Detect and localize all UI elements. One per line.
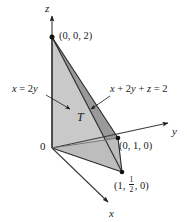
point-label-apex: (0, 0, 2)	[59, 31, 92, 42]
fraction-one-half: 12	[129, 176, 135, 193]
plane-eq-op-1: + 2	[115, 83, 131, 94]
point-label-base-corner: (1, 12, 0)	[114, 176, 149, 193]
vertex-dot-basecorner	[120, 170, 125, 175]
fraction-denominator: 2	[129, 186, 135, 194]
point-label-y-intercept: (0, 1, 0)	[119, 141, 152, 152]
origin-label: 0	[40, 141, 46, 152]
region-label-t: T	[77, 111, 84, 123]
fraction-numerator: 1	[129, 176, 135, 184]
axis-label-y: y	[172, 126, 177, 137]
annotation-var-y: y	[33, 83, 38, 94]
annotation-label-x-equals-2y: x = 2y	[12, 84, 38, 95]
annotation-label-plane-equation: x + 2y + z = 2	[110, 84, 167, 95]
plane-eq-op-3: = 2	[151, 83, 167, 94]
paren-close: )	[145, 180, 149, 191]
coord-separator-1: ,	[123, 180, 128, 191]
figure-3d-region-t: z y x 0 (0, 0, 2) (0, 1, 0) (1, 12, 0) x…	[0, 0, 187, 222]
plane-eq-op-2: +	[136, 83, 147, 94]
axis-label-x: x	[109, 208, 114, 219]
axis-label-z: z	[45, 3, 49, 14]
vertex-dot-apex	[50, 35, 55, 40]
figure-canvas	[0, 0, 187, 222]
annotation-relation: = 2	[17, 83, 33, 94]
